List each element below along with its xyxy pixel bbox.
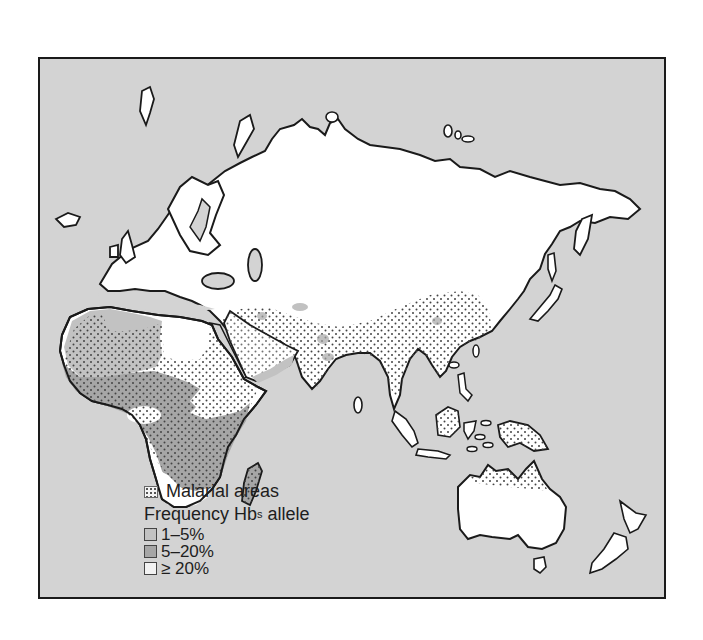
legend-item-5-20: 5–20% xyxy=(144,543,310,560)
legend-title-main: Frequency Hb xyxy=(144,503,257,526)
map-svg xyxy=(40,59,666,599)
sulawesi xyxy=(464,421,476,439)
map-frame: Malarial areas Frequency Hbs allele 1–5%… xyxy=(38,57,666,599)
map-legend: Malarial areas Frequency Hbs allele 1–5%… xyxy=(144,482,310,577)
small-island xyxy=(481,421,491,426)
tasmania xyxy=(534,557,546,573)
black-sea xyxy=(202,273,234,289)
legend-item-label: ≥ 20% xyxy=(161,560,209,577)
hbs-patch-india xyxy=(322,353,334,361)
white-swatch-icon xyxy=(144,562,157,575)
small-island xyxy=(467,447,477,452)
svalbard xyxy=(140,87,154,125)
legend-malaria: Malarial areas xyxy=(144,482,310,501)
iceland xyxy=(56,213,80,227)
caspian-sea xyxy=(248,249,262,281)
java xyxy=(416,449,450,459)
legend-item-ge-20: ≥ 20% xyxy=(144,560,310,577)
legend-item-1-5: 1–5% xyxy=(144,526,310,543)
gray-dark-swatch-icon xyxy=(144,545,157,558)
hbs-patch-mideast xyxy=(292,303,308,311)
hainan xyxy=(449,362,459,368)
legend-title-tail: allele xyxy=(263,503,310,526)
gray-light-swatch-icon xyxy=(144,528,157,541)
hbs-patch-mideast xyxy=(257,312,267,320)
sri-lanka xyxy=(354,397,362,413)
legend-item-label: 5–20% xyxy=(161,543,214,560)
arctic-island xyxy=(462,136,474,142)
stipple-swatch-icon xyxy=(144,486,158,498)
sakhalin xyxy=(548,253,556,281)
small-island xyxy=(475,435,485,440)
japan xyxy=(530,285,562,321)
hbs-patch-india xyxy=(317,334,329,344)
hbs-patch-seasia xyxy=(432,317,442,325)
british-isles xyxy=(120,231,135,263)
legend-malaria-label: Malarial areas xyxy=(166,482,279,501)
borneo-malaria xyxy=(436,407,460,437)
arctic-island xyxy=(444,125,452,137)
ireland xyxy=(110,245,118,257)
arctic-island xyxy=(455,131,461,139)
sumatra xyxy=(392,411,418,447)
new-zealand-north xyxy=(620,501,646,533)
new-zealand-south xyxy=(590,533,628,573)
taiwan xyxy=(473,345,479,357)
small-island xyxy=(483,443,493,448)
new-guinea-malaria xyxy=(498,421,548,451)
novaya-zemlya xyxy=(234,115,254,157)
philippines xyxy=(458,373,472,401)
legend-title: Frequency Hbs allele xyxy=(144,503,310,526)
arctic-island xyxy=(326,112,338,122)
legend-item-label: 1–5% xyxy=(161,526,204,543)
